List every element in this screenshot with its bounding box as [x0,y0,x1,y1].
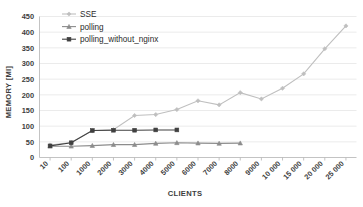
data-point [69,141,73,145]
y-tick-label: 0 [30,153,34,162]
x-tick-label: 5000 [159,159,177,177]
data-point [175,128,179,132]
y-tick-label: 50 [26,138,34,147]
data-point [196,99,200,103]
data-point [154,112,158,116]
x-tick-label: 2000 [95,159,113,177]
data-point [154,128,158,132]
legend-item-polling-without-nginx[interactable]: polling_without_nginx [62,35,158,44]
legend-label: polling [80,23,104,32]
x-tick-label: 8000 [222,159,240,177]
x-axis-tick-marks [50,158,346,161]
x-axis-title: CLIENTS [168,189,203,198]
y-axis-tick-labels: 050100150200250300350400450 [22,12,34,162]
chart-container: 050100150200250300350400450 101001000200… [0,0,363,207]
x-axis-tick-labels: 1010010002000300040005000600070008000900… [38,159,346,181]
x-tick-label: 10 000 [260,159,282,181]
data-point [48,144,52,148]
x-tick-label: 20 000 [302,159,324,181]
y-tick-label: 100 [22,122,34,131]
data-point [259,97,263,101]
data-point [67,37,71,41]
y-tick-label: 400 [22,28,34,37]
data-point [133,128,137,132]
x-tick-label: 4000 [138,159,156,177]
x-tick-label: 7000 [201,159,219,177]
legend-label: SSE [80,10,97,19]
data-point [90,129,94,133]
y-tick-label: 250 [22,75,34,84]
x-tick-label: 15 000 [281,159,303,181]
y-tick-label: 450 [22,12,34,21]
x-tick-label: 1000 [74,159,92,177]
legend-item-SSE[interactable]: SSE [62,10,97,19]
x-tick-label: 9000 [243,159,261,177]
y-tick-label: 350 [22,44,34,53]
series-line [50,143,240,146]
data-point [175,107,179,111]
y-axis-title: MEMORY [MI] [4,66,13,119]
y-tick-label: 200 [22,91,34,100]
legend-item-polling[interactable]: polling [62,23,104,32]
line-chart: 050100150200250300350400450 101001000200… [0,0,363,207]
x-tick-label: 25 000 [323,159,345,181]
x-tick-label: 10 [38,159,50,171]
data-point [112,128,116,132]
data-point [67,12,71,16]
x-tick-label: 6000 [180,159,198,177]
y-tick-label: 150 [22,106,34,115]
legend-label: polling_without_nginx [80,35,158,44]
x-tick-label: 3000 [117,159,135,177]
chart-legend: SSEpollingpolling_without_nginx [62,10,158,44]
y-tick-label: 300 [22,59,34,68]
x-tick-label: 100 [56,159,71,174]
